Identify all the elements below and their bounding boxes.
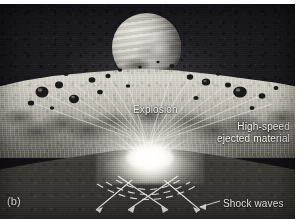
label-high-speed-ejected-material: High-speed ejected material: [225, 121, 290, 144]
label-shock-waves: Shock waves: [223, 198, 284, 210]
panel-label: (b): [7, 196, 21, 208]
label-explosion: Explosion: [133, 104, 178, 116]
shock-arrow-heads: [96, 206, 200, 213]
explosion-rays: [100, 110, 196, 162]
label-ejecta-line2: ejected material: [217, 133, 290, 145]
shock-label-leader-arrow: [199, 204, 206, 210]
label-shock-waves-text: Shock waves: [223, 198, 284, 209]
shock-direction-arrows: [96, 176, 200, 210]
label-ejecta-line1: High-speed: [237, 121, 290, 132]
impact-illustration-figure: Explosion High-speed ejected material Sh…: [0, 4, 295, 219]
label-explosion-text: Explosion: [133, 104, 178, 115]
panel-label-text: (b): [7, 195, 21, 207]
